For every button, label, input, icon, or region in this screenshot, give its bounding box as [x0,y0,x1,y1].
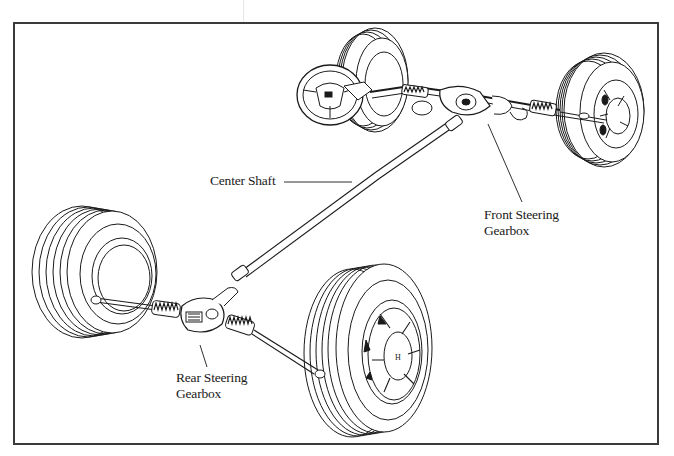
hub-emblem: H [395,353,401,362]
steering-system-illustration: H [0,0,674,456]
center-shaft [231,114,464,281]
rear-gearbox-label-line1: Rear Steering [176,370,247,386]
front-gearbox-label-line2: Gearbox [484,223,559,239]
rear-steering-gearbox-label: Rear Steering Gearbox [176,370,247,402]
center-shaft-label: Center Shaft [210,173,275,189]
center-shaft-label-text: Center Shaft [210,173,275,188]
rear-gearbox-label-line2: Gearbox [176,386,247,402]
rear-right-wheel: H [304,264,432,437]
front-gearbox-label-line1: Front Steering [484,207,559,223]
front-steering-gearbox-label: Front Steering Gearbox [484,207,559,239]
rear-gearbox-leader [200,345,207,367]
front-gearbox-leader [488,124,522,202]
rear-left-wheel [32,206,157,338]
front-right-wheel [556,53,644,167]
